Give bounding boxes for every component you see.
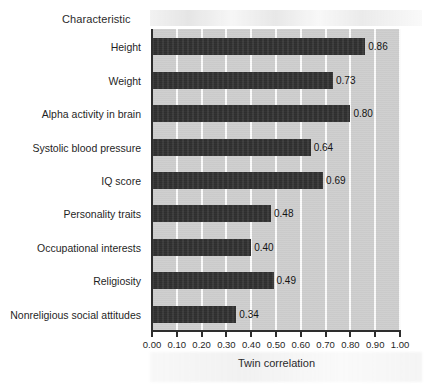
x-axis-tick-label: 1.00: [391, 339, 410, 350]
category-label: Personality traits: [0, 208, 146, 220]
x-axis-tick: [399, 331, 401, 337]
x-axis-tick-label: 0.20: [192, 339, 211, 350]
bar-value-label: 0.34: [239, 309, 258, 320]
x-axis-tick: [250, 331, 252, 337]
x-axis-tick-label: 0.40: [242, 339, 261, 350]
bar-value-label: 0.64: [314, 142, 333, 153]
x-axis-tick: [300, 331, 302, 337]
bar: [152, 172, 323, 189]
scan-bleed-artifact-top: [150, 10, 422, 26]
category-label: Height: [0, 41, 146, 53]
x-axis-tick-label: 0.50: [267, 339, 286, 350]
bar: [152, 272, 274, 289]
category-label: Nonreligious social attitudes: [0, 309, 146, 321]
bar-value-label: 0.80: [353, 108, 372, 119]
x-axis-tick-label: 0.70: [316, 339, 335, 350]
bar: [152, 306, 236, 323]
x-axis-tick-label: 0.10: [168, 339, 187, 350]
bar-value-label: 0.69: [326, 175, 345, 186]
x-axis-tick-label: 0.00: [143, 339, 162, 350]
bar-value-label: 0.49: [277, 275, 296, 286]
y-axis-title: Characteristic: [62, 13, 131, 25]
bar-value-label: 0.40: [254, 242, 273, 253]
category-label: IQ score: [0, 175, 146, 187]
bar: [152, 105, 350, 122]
category-label: Religiosity: [0, 275, 146, 287]
x-axis-tick: [325, 331, 327, 337]
x-axis-tick: [225, 331, 227, 337]
bar: [152, 205, 271, 222]
x-axis-tick: [374, 331, 376, 337]
x-axis-tick: [349, 331, 351, 337]
bar: [152, 139, 311, 156]
category-label: Weight: [0, 75, 146, 87]
x-axis-tick: [275, 331, 277, 337]
category-label: Systolic blood pressure: [0, 142, 146, 154]
x-axis-tick: [151, 331, 153, 337]
x-axis-tick-label: 0.90: [366, 339, 385, 350]
x-axis-tick-label: 0.80: [341, 339, 360, 350]
x-axis-tick: [176, 331, 178, 337]
category-label: Alpha activity in brain: [0, 108, 146, 120]
twin-correlation-bar-chart: Characteristic Twin correlation 0.000.10…: [0, 0, 424, 387]
y-axis-line: [151, 29, 153, 331]
x-axis-tick-label: 0.60: [292, 339, 311, 350]
gridline: [399, 29, 401, 330]
x-axis-tick: [201, 331, 203, 337]
gridline: [374, 29, 376, 330]
bar-value-label: 0.86: [368, 41, 387, 52]
bar: [152, 38, 365, 55]
bar: [152, 72, 333, 89]
bar-value-label: 0.73: [336, 75, 355, 86]
x-axis-tick-label: 0.30: [217, 339, 236, 350]
x-axis-title: Twin correlation: [152, 357, 401, 369]
bar: [152, 239, 251, 256]
category-label: Occupational interests: [0, 242, 146, 254]
bar-value-label: 0.48: [274, 208, 293, 219]
